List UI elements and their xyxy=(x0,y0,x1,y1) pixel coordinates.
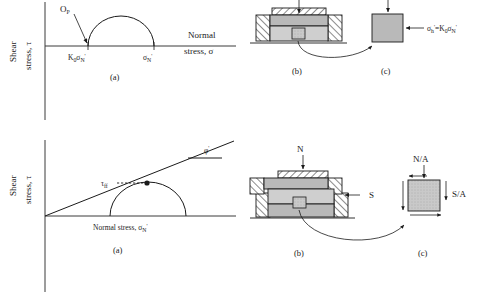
phi-angle-label: φ' xyxy=(204,145,209,155)
element-square-bottom xyxy=(408,180,440,211)
y-axis-label-failure-line1: Shear xyxy=(8,176,18,197)
shear-force-label: S xyxy=(369,190,374,200)
y-axis-label-failure-line2: stress, τ xyxy=(23,176,33,204)
panel-tag-c-top: (c) xyxy=(381,66,391,76)
pole-leader-line xyxy=(74,14,87,43)
panel-tag-b-bottom: (b) xyxy=(294,248,304,258)
soil-upper-half-top xyxy=(270,15,328,26)
mohr-circle-at-rest xyxy=(88,16,154,46)
chart-failure: τff φ' Normal stress, σN' Shear stress, … xyxy=(8,140,236,292)
panel-tag-c-bottom: (c) xyxy=(418,248,428,258)
panel-tag-b-top: (b) xyxy=(292,66,302,76)
x-axis-label-line1: Normal xyxy=(188,30,216,40)
panel-tag-a-top: (a) xyxy=(110,72,120,82)
x-axis-label-failure: Normal stress, σN' xyxy=(93,223,147,234)
shear-box-right-wall-lower xyxy=(334,193,348,217)
equation-sigma-h: σh'=K0σN' xyxy=(427,24,457,35)
element-shear-label: S/A xyxy=(452,189,467,199)
soil-upper-half-bottom xyxy=(264,178,328,189)
mohr-circle-failure xyxy=(110,182,186,216)
loading-platen-bottom xyxy=(278,171,328,178)
element-callout-square-top xyxy=(292,28,305,39)
x-axis-label-line2: stress, σ xyxy=(184,46,213,56)
apparatus-failure: N S (b) xyxy=(250,144,404,258)
tangency-point-marker xyxy=(144,180,149,185)
stress-element-at-rest: N σh'=K0σN' (c) xyxy=(372,0,457,76)
x-tick-label-k0-sigma-n: K0σN' xyxy=(68,53,86,64)
normal-load-label-bottom: N xyxy=(297,144,304,154)
apparatus-at-rest: N (b) xyxy=(250,0,372,76)
tau-ff-label: τff xyxy=(101,179,108,189)
element-normal-label-bottom: N/A xyxy=(413,154,429,164)
figure-root: OP K0σN' σN' Normal stress, σ Shear stre… xyxy=(0,0,481,302)
x-tick-label-sigma-n: σN' xyxy=(143,53,152,64)
y-axis-label-line1: Shear xyxy=(8,42,18,63)
pole-label: OP xyxy=(60,4,70,15)
stress-element-failure: N/A S/A (c) xyxy=(403,154,467,258)
element-square-top xyxy=(372,14,403,42)
chart-at-rest: OP K0σN' σN' Normal stress, σ Shear stre… xyxy=(8,2,236,120)
shear-box-left-wall-top xyxy=(256,15,270,41)
figure-canvas: OP K0σN' σN' Normal stress, σ Shear stre… xyxy=(0,0,481,302)
shear-box-left-wall-upper xyxy=(250,178,264,194)
element-callout-square-bottom xyxy=(293,197,306,208)
shear-box-right-wall-top xyxy=(328,15,342,41)
panel-tag-a-bottom: (a) xyxy=(113,245,123,255)
y-axis-label-line2: stress, τ xyxy=(23,42,33,70)
callout-curve-top xyxy=(298,41,372,57)
